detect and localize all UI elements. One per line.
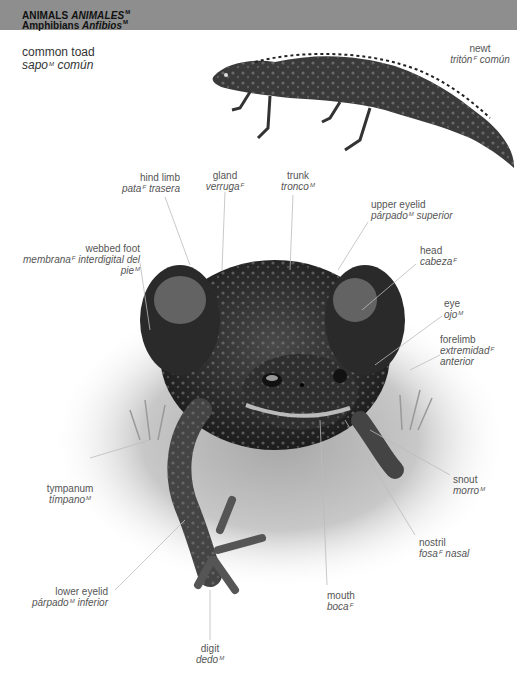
label-forelimb: forelimb extremidadF anterior <box>440 334 522 367</box>
gender-mark: F <box>473 55 477 61</box>
label-es: párpadoM inferior <box>20 597 108 608</box>
label-upper-eyelid: upper eyelid párpadoM superior <box>371 199 481 221</box>
label-en: upper eyelid <box>371 199 481 210</box>
label-tympanum: tympanum tímpanoM <box>30 483 110 505</box>
label-es: bocaF <box>327 601 387 612</box>
label-digit: digit dedoM <box>180 643 240 665</box>
label-es-word: común <box>480 54 510 65</box>
gender-mark: F <box>350 602 354 608</box>
label-es-word: interdigital del pie <box>78 254 140 276</box>
label-es: tritónF común <box>440 54 520 65</box>
label-es: extremidadF anterior <box>440 345 522 367</box>
label-lower-eyelid: lower eyelid párpadoM inferior <box>20 586 108 608</box>
gender-mark: M <box>219 655 224 661</box>
label-es-word: párpado <box>371 210 408 221</box>
label-es: verrugaF <box>195 181 255 192</box>
label-es: cabezaF <box>420 256 500 267</box>
label-es-word: tronco <box>281 181 309 192</box>
label-es-word: cabeza <box>420 256 452 267</box>
label-es: morroM <box>453 485 513 496</box>
label-es-word: tímpano <box>49 494 85 505</box>
label-en: head <box>420 245 500 256</box>
gender-mark: F <box>453 257 457 263</box>
label-es-word: verruga <box>206 181 240 192</box>
label-es: pataF trasera <box>100 183 180 194</box>
label-en: lower eyelid <box>20 586 108 597</box>
label-es-word: trasera <box>149 183 180 194</box>
gender-mark: M <box>310 182 315 188</box>
label-en: gland <box>195 170 255 181</box>
gender-mark: M <box>86 495 91 501</box>
label-es-word: superior <box>416 210 452 221</box>
gender-mark: M <box>409 211 414 217</box>
gender-mark: M <box>70 598 75 604</box>
label-es: membranaF interdigital del pieM <box>10 254 140 276</box>
label-es-word: membrana <box>23 254 71 265</box>
gender-mark: M <box>480 486 485 492</box>
label-es-word: anterior <box>440 356 474 367</box>
label-trunk: trunk troncoM <box>268 170 328 192</box>
label-webbed-foot: webbed foot membranaF interdigital del p… <box>10 243 140 276</box>
label-en: tympanum <box>30 483 110 494</box>
label-en: forelimb <box>440 334 522 345</box>
label-en: snout <box>453 474 513 485</box>
label-en: eye <box>444 298 504 309</box>
label-en: newt <box>440 43 520 54</box>
label-es-word: dedo <box>196 654 218 665</box>
label-gland: gland verrugaF <box>195 170 255 192</box>
label-es-word: boca <box>327 601 349 612</box>
label-es: fosaF nasal <box>419 548 499 559</box>
gender-mark: F <box>142 184 146 190</box>
label-en: nostril <box>419 537 499 548</box>
label-es-word: nasal <box>445 548 469 559</box>
label-en: mouth <box>327 590 387 601</box>
label-es-word: inferior <box>77 597 108 608</box>
label-en: digit <box>180 643 240 654</box>
label-mouth: mouth bocaF <box>327 590 387 612</box>
gender-mark: M <box>458 310 463 316</box>
label-es: ojoM <box>444 309 504 320</box>
label-es-word: pata <box>122 183 141 194</box>
label-es-word: tritón <box>450 54 472 65</box>
label-es: troncoM <box>268 181 328 192</box>
label-es-word: ojo <box>444 309 457 320</box>
label-newt: newt tritónF común <box>440 43 520 65</box>
label-en: hind limb <box>100 172 180 183</box>
title-es: sapoM común <box>22 59 95 72</box>
title-es-word: sapo <box>22 58 48 72</box>
label-nostril: nostril fosaF nasal <box>419 537 499 559</box>
gender-mark: M <box>135 266 140 272</box>
label-en: webbed foot <box>10 243 140 254</box>
title-es-word: común <box>57 58 93 72</box>
label-eye: eye ojoM <box>444 298 504 320</box>
label-es-word: morro <box>453 485 479 496</box>
label-es-word: fosa <box>419 548 438 559</box>
gender-mark: M <box>49 61 54 67</box>
label-hind-limb: hind limb pataF trasera <box>100 172 180 194</box>
label-es: tímpanoM <box>30 494 110 505</box>
label-es-word: párpado <box>32 597 69 608</box>
gender-mark: F <box>439 549 443 555</box>
label-en: trunk <box>268 170 328 181</box>
main-title: common toad sapoM común <box>22 46 95 72</box>
gender-mark: F <box>72 255 76 261</box>
title-en: common toad <box>22 45 95 59</box>
newt-illustration <box>213 54 514 168</box>
gender-mark: F <box>490 346 494 352</box>
label-head: head cabezaF <box>420 245 500 267</box>
label-es: dedoM <box>180 654 240 665</box>
label-es-word: extremidad <box>440 345 489 356</box>
label-es: párpadoM superior <box>371 210 481 221</box>
label-snout: snout morroM <box>453 474 513 496</box>
gender-mark: F <box>241 182 245 188</box>
